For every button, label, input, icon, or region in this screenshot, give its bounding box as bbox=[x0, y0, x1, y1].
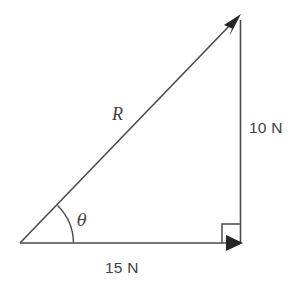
horizontal-force-vector bbox=[20, 235, 243, 251]
vertical-force-label: 10 N bbox=[249, 119, 283, 136]
resultant-label: R bbox=[111, 104, 123, 124]
vector-diagram-canvas: R θ 10 N 15 N bbox=[0, 0, 307, 288]
angle-label: θ bbox=[77, 211, 87, 230]
resultant-vector-line bbox=[20, 22, 233, 243]
resultant-arrowhead-icon bbox=[224, 14, 241, 36]
horizontal-force-label: 15 N bbox=[105, 259, 139, 276]
theta-arc-icon bbox=[58, 206, 74, 243]
resultant-vector bbox=[20, 14, 241, 243]
vector-diagram-figure: R θ 10 N 15 N bbox=[0, 0, 307, 288]
